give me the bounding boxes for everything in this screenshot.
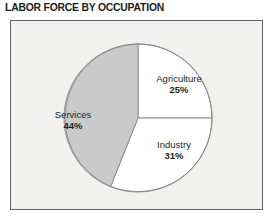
pie-label-industry-name: Industry xyxy=(137,139,211,150)
pie-label-industry-value: 31% xyxy=(137,150,211,161)
pie-label-services: Services 44% xyxy=(33,109,113,131)
pie-label-agriculture-name: Agriculture xyxy=(139,73,219,84)
pie-chart-figure: LABOR FORCE BY OCCUPATION Agriculture 25… xyxy=(0,0,275,224)
chart-title: LABOR FORCE BY OCCUPATION xyxy=(5,1,164,13)
pie-label-agriculture: Agriculture 25% xyxy=(139,73,219,95)
pie-label-industry: Industry 31% xyxy=(137,139,211,161)
chart-plot-frame: Agriculture 25% Services 44% Industry 31… xyxy=(10,20,263,210)
pie-label-services-name: Services xyxy=(33,109,113,120)
pie-label-agriculture-value: 25% xyxy=(139,84,219,95)
pie-label-services-value: 44% xyxy=(33,120,113,131)
